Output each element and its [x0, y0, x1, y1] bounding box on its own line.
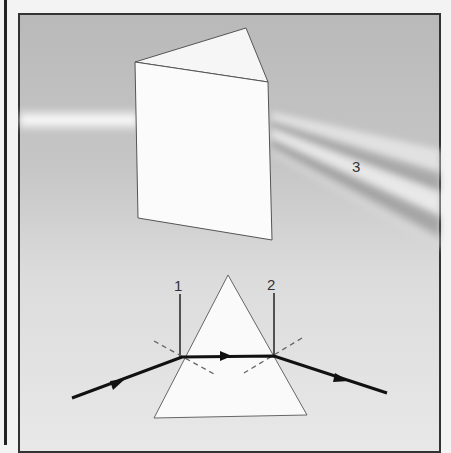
label-spectrum: 3 [352, 158, 360, 175]
dispersed-spectrum [272, 112, 440, 250]
prism-3d [135, 28, 272, 240]
label-normal-1: 1 [174, 277, 182, 294]
label-normal-2: 2 [267, 276, 275, 293]
incoming-light-beam [20, 108, 138, 132]
prism-cross-section [154, 275, 307, 418]
